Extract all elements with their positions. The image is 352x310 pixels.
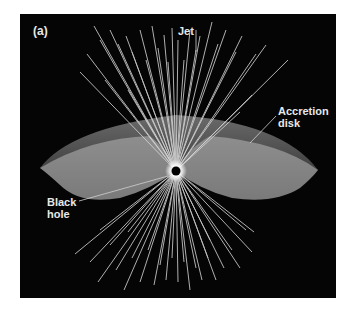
accretion-disk-label-line1: Accretion xyxy=(278,105,329,117)
panel-label: (a) xyxy=(33,25,48,37)
black-hole xyxy=(172,167,181,176)
black-hole-jet-diagram xyxy=(0,0,352,310)
black-hole-label-line1: Black xyxy=(47,196,76,208)
accretion-disk-label-line2: disk xyxy=(278,117,300,129)
accretion-disk-right-lobe xyxy=(176,136,318,200)
jet-label: Jet xyxy=(178,25,194,37)
black-hole-label-line2: hole xyxy=(47,208,70,220)
